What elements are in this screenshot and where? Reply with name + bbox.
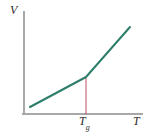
transition-temperature-base: T [79, 114, 86, 128]
glass-transition-figure: V T Tg [0, 0, 150, 138]
volume-temperature-curve [30, 27, 130, 107]
y-axis-label: V [10, 4, 17, 16]
transition-temperature-subscript: g [86, 123, 90, 132]
plot-canvas [0, 0, 150, 138]
x-axis-label: T [133, 115, 140, 127]
transition-temperature-label: Tg [79, 115, 90, 130]
